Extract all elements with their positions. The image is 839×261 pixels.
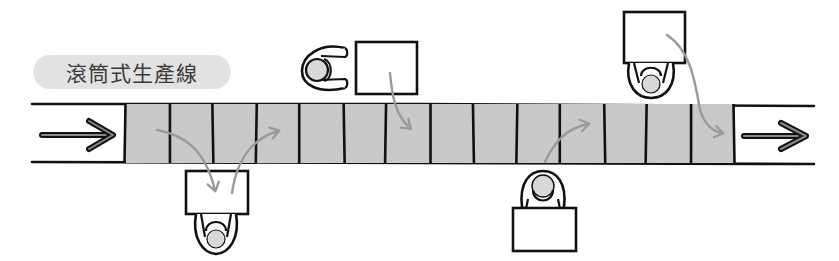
worker-icon (522, 171, 565, 209)
output-arrow-icon (744, 123, 806, 149)
roller-cell (256, 104, 299, 163)
cell-divider (344, 104, 345, 163)
head-icon (532, 175, 554, 197)
workstation-3 (513, 171, 576, 251)
roller-cell (169, 104, 212, 163)
roller-cell (300, 104, 343, 163)
roller-cell (430, 104, 473, 163)
roller-cell (647, 104, 690, 163)
cell-divider (473, 104, 474, 163)
work-table (624, 12, 685, 63)
roller-cell (387, 104, 430, 163)
input-arrow-icon (42, 121, 113, 149)
workstation-1 (186, 171, 248, 254)
roller-cell (126, 104, 169, 163)
conveyor-belt (32, 104, 814, 164)
worker-icon (628, 63, 674, 98)
roller-cell (343, 104, 386, 163)
roller-conveyor-diagram: 滾筒式生產線 (0, 0, 839, 261)
cell-divider (516, 104, 517, 163)
cell-divider (385, 104, 386, 163)
worker-icon (195, 214, 237, 254)
head-icon (207, 230, 225, 248)
roller-cell (604, 104, 647, 163)
cell-divider (125, 104, 126, 163)
worker-icon (302, 47, 347, 90)
workstation-2 (302, 42, 417, 94)
roller-cell (517, 104, 560, 163)
cell-divider (646, 104, 647, 163)
workstation-4 (624, 12, 685, 98)
cell-divider (604, 104, 605, 163)
head-icon (306, 59, 328, 81)
cell-divider (212, 104, 213, 163)
diagram-canvas (0, 0, 839, 261)
cell-divider (256, 104, 257, 163)
work-table (186, 171, 248, 214)
roller-cells (125, 104, 735, 163)
cell-divider (734, 104, 735, 163)
head-icon (642, 75, 660, 93)
work-table (513, 208, 576, 251)
roller-cell (213, 104, 256, 163)
roller-cell (691, 104, 734, 163)
roller-cell (473, 104, 516, 163)
work-table (356, 42, 417, 94)
